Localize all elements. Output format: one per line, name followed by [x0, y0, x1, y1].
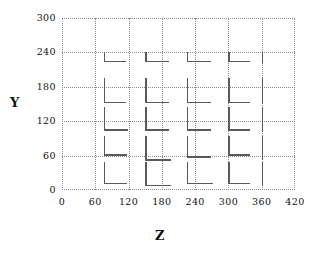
glyph-arm [104, 61, 126, 63]
chart-root: Y 060120180240300 060120180240300360420 … [0, 0, 320, 256]
y-tick-label: 180 [37, 81, 56, 92]
plot-border-top [62, 18, 295, 19]
grid-line-vertical [162, 18, 163, 190]
x-tick-label: 420 [285, 196, 304, 207]
glyph-stem [145, 162, 147, 186]
glyph-arm [145, 129, 169, 131]
glyph-stem [187, 107, 189, 131]
y-tick-label: 0 [50, 184, 56, 195]
glyph-arm [145, 102, 169, 104]
plot-border-left [62, 18, 63, 190]
plot-border-bottom [62, 189, 295, 190]
glyph-stem [104, 78, 106, 103]
glyph-stem [104, 136, 106, 156]
x-tick-label: 240 [185, 196, 204, 207]
glyph-arm [104, 154, 127, 156]
glyph-stem [187, 162, 189, 184]
grid-line-horizontal [62, 52, 295, 53]
x-tick-label: 120 [119, 196, 138, 207]
y-axis-tick-labels: 060120180240300 [0, 18, 56, 190]
glyph-stem [228, 78, 230, 103]
glyph-arm [228, 129, 250, 131]
glyph-arm [187, 156, 211, 158]
plot-area [62, 18, 295, 190]
grid-line-vertical [195, 18, 196, 190]
glyph-stem [104, 107, 106, 131]
glyph-stem [262, 162, 264, 186]
x-tick-label: 300 [219, 196, 238, 207]
glyph-arm [187, 129, 211, 131]
x-axis-tick-labels: 060120180240300360420 [62, 196, 295, 212]
glyph-arm [228, 102, 250, 104]
x-tick-label: 360 [252, 196, 271, 207]
glyph-stem [104, 162, 106, 184]
glyph-arm [145, 159, 171, 161]
y-tick-label: 300 [37, 12, 56, 23]
grid-line-horizontal [62, 156, 295, 157]
y-tick-label: 60 [43, 150, 56, 161]
x-tick-label: 180 [152, 196, 171, 207]
glyph-arm [187, 183, 213, 185]
glyph-stem [262, 78, 264, 104]
x-axis-title: Z [0, 228, 320, 243]
glyph-arm [104, 183, 127, 185]
glyph-arm [228, 61, 250, 63]
glyph-stem [145, 107, 147, 131]
glyph-stem [187, 78, 189, 103]
glyph-arm [145, 61, 169, 63]
glyph-stem [187, 136, 189, 158]
grid-line-vertical [95, 18, 96, 190]
glyph-arm [228, 183, 250, 185]
glyph-stem [145, 78, 147, 103]
glyph-stem [145, 136, 147, 161]
glyph-arm [104, 102, 126, 104]
glyph-stem [228, 162, 230, 184]
glyph-stem [262, 107, 264, 132]
glyph-arm [187, 102, 211, 104]
y-tick-label: 240 [37, 46, 56, 57]
glyph-arm [187, 61, 211, 63]
glyph-stem [262, 136, 264, 160]
grid-line-horizontal [62, 121, 295, 122]
grid-line-vertical [129, 18, 130, 190]
glyph-arm [104, 129, 128, 131]
plot-border-right [294, 18, 295, 190]
glyph-arm [228, 154, 250, 156]
glyph-stem [228, 107, 230, 131]
y-tick-label: 120 [37, 115, 56, 126]
glyph-stem [228, 136, 230, 156]
grid-line-horizontal [62, 87, 295, 88]
glyph-arm [145, 185, 171, 187]
x-tick-label: 0 [59, 196, 65, 207]
x-tick-label: 60 [89, 196, 102, 207]
glyph-stem [262, 52, 264, 63]
